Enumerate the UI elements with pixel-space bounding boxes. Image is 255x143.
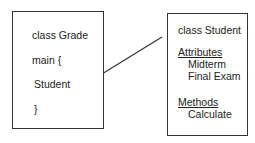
attributes-heading: Attributes: [178, 46, 222, 58]
grade-student-reference: Student: [34, 78, 70, 90]
student-class-title: class Student: [178, 24, 241, 36]
grade-main-line: main {: [32, 54, 61, 66]
grade-closing-brace: }: [34, 103, 38, 115]
method-item: Calculate: [188, 108, 232, 120]
grade-class-title: class Grade: [32, 29, 88, 41]
attribute-item: Midterm: [188, 58, 226, 70]
attribute-item: Final Exam: [188, 70, 241, 82]
methods-heading: Methods: [178, 96, 218, 108]
